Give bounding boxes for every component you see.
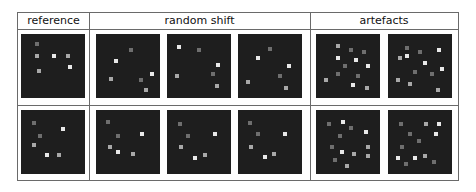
dot-marker	[256, 132, 260, 136]
header-random-shift: random shift	[89, 13, 310, 29]
artefacts-panel	[316, 34, 380, 98]
dot-marker	[437, 48, 441, 52]
artefacts-panel	[388, 110, 452, 174]
header-artefacts: artefacts	[310, 13, 458, 29]
dot-marker	[263, 155, 267, 159]
dot-marker	[351, 83, 355, 87]
dot-marker	[333, 158, 337, 162]
dot-marker	[399, 122, 403, 126]
dot-marker	[116, 134, 120, 138]
dot-marker	[35, 42, 39, 46]
dot-marker	[364, 130, 368, 134]
dot-marker	[341, 120, 345, 124]
dot-marker	[327, 122, 331, 126]
dot-marker	[32, 121, 36, 125]
dot-marker	[330, 145, 334, 149]
random-shift-panel	[96, 34, 160, 98]
dot-marker	[336, 56, 340, 60]
dot-marker	[366, 64, 370, 68]
random-shift-panel	[238, 34, 302, 98]
dot-marker	[178, 122, 182, 126]
dot-marker	[246, 80, 250, 84]
dot-marker	[343, 64, 347, 68]
dot-marker	[193, 156, 197, 160]
dot-marker	[66, 54, 70, 58]
dot-marker	[408, 82, 412, 86]
dot-marker	[354, 58, 358, 62]
dot-marker	[211, 72, 215, 76]
dot-marker	[116, 150, 120, 154]
dot-marker	[352, 152, 356, 156]
dot-marker	[109, 77, 113, 81]
artefacts-panel	[316, 110, 380, 174]
dot-marker	[324, 78, 328, 82]
dot-marker	[424, 122, 428, 126]
dot-marker	[417, 139, 421, 143]
dot-marker	[32, 143, 36, 147]
dot-marker	[108, 145, 112, 149]
dot-marker	[215, 84, 219, 88]
dot-marker	[45, 153, 49, 157]
dot-marker	[398, 56, 402, 60]
dot-marker	[284, 86, 288, 90]
dot-marker	[340, 150, 344, 154]
dot-marker	[177, 45, 181, 49]
dot-marker	[283, 132, 287, 136]
dot-marker	[68, 65, 72, 69]
dot-marker	[197, 48, 201, 52]
dot-marker	[436, 88, 440, 92]
dot-marker	[366, 145, 370, 149]
dot-marker	[432, 160, 436, 164]
dot-marker	[434, 132, 438, 136]
dot-marker	[216, 63, 220, 67]
dot-marker	[249, 145, 253, 149]
header-divider	[18, 29, 458, 30]
random-shift-panel	[96, 110, 160, 174]
dot-marker	[405, 54, 409, 58]
dot-marker	[423, 61, 427, 65]
dot-marker	[203, 153, 207, 157]
dot-marker	[248, 121, 252, 125]
dot-marker	[268, 47, 272, 51]
dot-marker	[256, 56, 260, 60]
dot-marker	[37, 69, 41, 73]
dot-marker	[413, 70, 417, 74]
dot-marker	[349, 48, 353, 52]
dot-marker	[336, 44, 340, 48]
dot-marker	[396, 156, 400, 160]
dot-marker	[175, 74, 179, 78]
dot-marker	[139, 78, 143, 82]
dot-marker	[186, 134, 190, 138]
dot-marker	[356, 74, 360, 78]
dot-marker	[430, 72, 434, 76]
dot-marker	[140, 132, 144, 136]
dot-marker	[131, 152, 135, 156]
dot-marker	[61, 127, 65, 131]
dot-marker	[38, 134, 42, 138]
dot-marker	[129, 48, 133, 52]
dot-marker	[287, 64, 291, 68]
dot-marker	[366, 154, 370, 158]
dot-marker	[408, 132, 412, 136]
dot-marker	[440, 67, 444, 71]
column-divider-1	[89, 13, 90, 180]
reference-panel	[21, 110, 85, 174]
dot-marker	[52, 54, 56, 58]
dot-marker	[437, 122, 441, 126]
random-shift-panel	[167, 110, 231, 174]
dot-marker	[338, 134, 342, 138]
dot-marker	[345, 164, 349, 168]
dot-marker	[336, 72, 340, 76]
dot-marker	[413, 156, 417, 160]
dot-marker	[106, 120, 110, 124]
dot-marker	[150, 72, 154, 76]
dot-marker	[405, 46, 409, 50]
reference-panel	[21, 34, 85, 98]
dot-marker	[423, 154, 427, 158]
dot-marker	[35, 54, 39, 58]
dot-marker	[114, 59, 118, 63]
dot-marker	[278, 74, 282, 78]
dot-marker	[144, 88, 148, 92]
artefacts-panel	[388, 34, 452, 98]
dot-marker	[365, 86, 369, 90]
